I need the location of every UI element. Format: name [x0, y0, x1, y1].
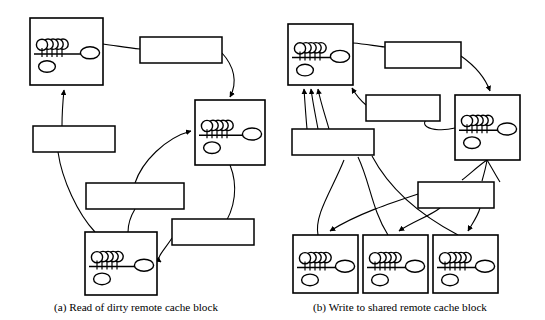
message-box-n2b	[418, 182, 494, 208]
edge-msgn2a-to-local	[352, 88, 366, 105]
edge-local-to-msg1	[103, 44, 140, 49]
edge-dirty-to-msg3b	[128, 209, 135, 232]
message-box-m3a	[33, 126, 115, 152]
edge-msgn1-to-home	[461, 56, 490, 91]
directory-icon	[330, 50, 349, 62]
caption-b: (b) Write to shared remote cache block	[313, 301, 487, 314]
memory-icon	[39, 61, 56, 73]
edge-shared1-to-msgn3	[317, 160, 344, 235]
directory-icon	[335, 260, 354, 272]
memory-icon	[297, 64, 314, 76]
message-box-m3b	[86, 183, 184, 209]
message-box-n2a	[366, 95, 440, 121]
message-box-n1	[385, 42, 461, 68]
edge-shared2-to-msgn3	[358, 157, 388, 235]
edge-msg2-to-dirty	[159, 238, 172, 262]
directory-icon	[405, 260, 424, 272]
edge-home-to-msgn2b-c	[487, 160, 500, 182]
memory-icon	[442, 274, 459, 286]
memory-icon	[302, 274, 319, 286]
edge-msgn2b-to-shared3	[468, 208, 480, 231]
directory-icon	[475, 260, 494, 272]
edge-msgn3-to-local-c	[318, 89, 329, 129]
figure-root: (a) Read of dirty remote cache block (b)…	[0, 0, 545, 320]
edge-msg1-to-home	[222, 53, 234, 97]
memory-icon	[372, 274, 389, 286]
directory-icon	[134, 259, 153, 271]
message-box-n3	[292, 129, 374, 155]
memory-icon	[464, 137, 481, 149]
edge-msg3a-to-local	[62, 90, 64, 126]
edge-msgn2b-to-shared2	[399, 208, 440, 231]
directory-icon	[497, 123, 516, 135]
edge-local-to-msgn1	[353, 43, 385, 47]
edge-msgn3-to-local-b	[311, 89, 318, 129]
memory-icon	[94, 273, 111, 285]
caption-a: (a) Read of dirty remote cache block	[54, 301, 218, 314]
memory-icon	[204, 142, 221, 154]
edge-msgn2b-to-shared1	[330, 190, 430, 231]
directory-icon	[80, 47, 99, 59]
edge-msg3b-to-home	[135, 131, 191, 183]
directory-icon	[242, 128, 261, 140]
edge-msgn3-to-local-a	[304, 89, 307, 129]
message-box-m1	[140, 37, 222, 63]
diagram-canvas: (a) Read of dirty remote cache block (b)…	[0, 0, 545, 320]
message-box-m2	[172, 219, 254, 245]
